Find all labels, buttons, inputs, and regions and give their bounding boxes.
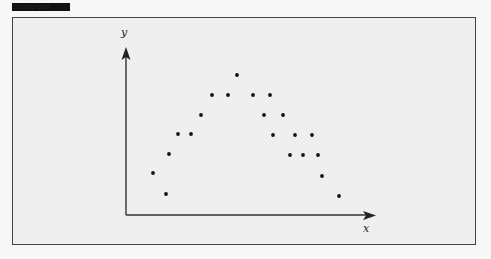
axes <box>122 47 377 220</box>
data-point <box>235 73 239 77</box>
data-point <box>301 153 305 157</box>
scatter-plot <box>0 0 491 259</box>
data-point <box>176 132 180 136</box>
data-points <box>151 73 341 198</box>
data-point <box>251 93 255 97</box>
data-point <box>320 174 324 178</box>
data-point <box>288 153 292 157</box>
data-point <box>210 93 214 97</box>
data-point <box>164 192 168 196</box>
data-point <box>293 133 297 137</box>
y-axis-label: y <box>121 26 127 39</box>
data-point <box>271 133 275 137</box>
data-point <box>268 93 272 97</box>
data-point <box>337 194 341 198</box>
data-point <box>226 93 230 97</box>
data-point <box>316 153 320 157</box>
data-point <box>281 113 285 117</box>
data-point <box>310 133 314 137</box>
x-axis-label: x <box>363 222 369 235</box>
data-point <box>262 113 266 117</box>
data-point <box>189 132 193 136</box>
data-point <box>167 152 171 156</box>
data-point <box>199 113 203 117</box>
data-point <box>151 171 155 175</box>
